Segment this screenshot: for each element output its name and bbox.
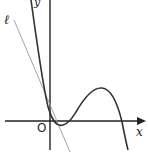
tangent-line-label: ℓ — [4, 12, 10, 27]
x-axis-arrow-icon — [137, 117, 146, 125]
origin-label: O — [37, 121, 46, 135]
x-axis-label: x — [136, 125, 143, 139]
graph-svg: y x O ℓ — [0, 0, 148, 164]
graph-figure: y x O ℓ — [0, 0, 148, 164]
y-axis-label: y — [33, 0, 41, 9]
